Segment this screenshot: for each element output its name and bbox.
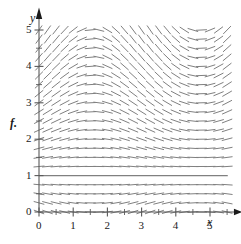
x-tick-label: 1 [70,220,76,231]
x-tick-label: 2 [104,220,110,231]
x-tick-label: 5 [207,220,213,231]
x-tick-label: 0 [36,220,42,231]
slope-field-figure: f. y x 012345 012345 [0,0,241,244]
y-tick-label: 4 [26,60,32,71]
y-tick-label: 3 [26,97,32,108]
y-tick-label: 1 [26,170,32,181]
x-tick-label: 4 [173,220,179,231]
direction-field-segments [34,25,233,213]
slope-field-plot [0,0,241,244]
y-tick-label: 5 [26,24,32,35]
x-tick-label: 3 [139,220,145,231]
y-tick-label: 2 [26,133,32,144]
y-tick-label: 0 [26,206,32,217]
part-label: f. [10,117,17,129]
